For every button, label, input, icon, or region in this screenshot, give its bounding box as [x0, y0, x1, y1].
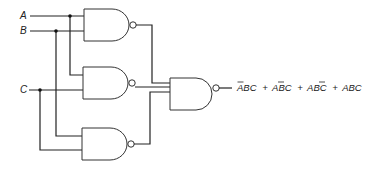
term-3: ABC — [306, 82, 327, 93]
nand-gate-2 — [83, 67, 135, 99]
output-expression: ABC + ABC + ABC + ABC — [236, 82, 362, 93]
inversion-bubble — [130, 22, 136, 28]
expression-text: ABC + ABC + ABC + ABC — [236, 82, 362, 93]
input-label-b: B — [20, 25, 27, 36]
input-label-c: C — [20, 84, 28, 95]
circuit-svg: A B C — [0, 0, 377, 172]
wire-gate3-out — [134, 92, 170, 144]
wire-b — [30, 29, 84, 136]
term-2: ABC — [271, 82, 292, 93]
junction-c — [38, 88, 42, 92]
nand-gate-3 — [82, 128, 134, 160]
junction-b — [54, 29, 58, 33]
inversion-bubble — [128, 141, 134, 147]
wire-a — [30, 14, 84, 75]
term-1: ABC — [236, 82, 257, 93]
nand-gate-1 — [84, 9, 136, 41]
inversion-bubble — [129, 80, 135, 86]
nand-gate-output — [170, 78, 219, 110]
logic-circuit-diagram: A B C — [0, 0, 377, 172]
inversion-bubble — [213, 85, 219, 91]
input-label-a: A — [19, 10, 27, 21]
wire-gate1-out — [136, 25, 170, 83]
junction-a — [68, 14, 72, 18]
term-4: ABC — [341, 82, 362, 93]
